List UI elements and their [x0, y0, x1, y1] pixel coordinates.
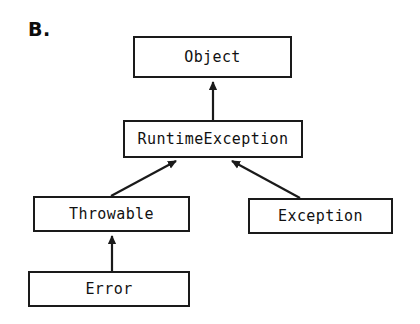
class-box-throwable[interactable]: Throwable	[33, 196, 190, 232]
class-box-object-label: Object	[184, 48, 241, 66]
class-box-error-label: Error	[85, 280, 132, 298]
class-box-runtimeexception[interactable]: RuntimeException	[123, 120, 303, 158]
class-box-runtimeexception-label: RuntimeException	[138, 130, 289, 148]
edge-throwable-to-runtimeexception	[111, 161, 176, 196]
class-box-throwable-label: Throwable	[69, 205, 154, 223]
class-box-error[interactable]: Error	[28, 271, 190, 307]
edge-exception-to-runtimeexception	[232, 161, 300, 198]
panel-label: B.	[28, 20, 51, 39]
class-box-exception[interactable]: Exception	[248, 198, 393, 234]
class-box-object[interactable]: Object	[133, 36, 292, 78]
class-box-exception-label: Exception	[278, 207, 363, 225]
diagram-canvas: B. Object RuntimeException Throwable Exc…	[0, 0, 420, 324]
